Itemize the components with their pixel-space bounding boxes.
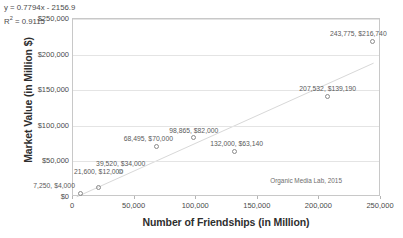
x-axis-tick-mark [195, 196, 196, 199]
data-point-marker[interactable] [232, 149, 237, 154]
data-point-label: 7,250, $4,000 [33, 182, 75, 189]
y-axis-tick-label: $150,000 [3, 85, 69, 94]
x-axis-tick-labels: 050,000100,000150,000200,000250,000 [72, 201, 380, 213]
data-point-marker[interactable] [154, 144, 159, 149]
x-axis-tick-mark [318, 196, 319, 199]
trendline-r-squared: R2 = 0.9115 [4, 13, 75, 27]
data-point-label: 132,000, $63,140 [210, 140, 263, 147]
x-axis-tick-label: 150,000 [243, 201, 270, 210]
data-point-label: 207,532, $139,190 [299, 85, 356, 92]
x-axis-tick-label: 200,000 [305, 201, 332, 210]
x-axis-title: Number of Friendships (in Million) [72, 216, 380, 228]
data-point-label: 39,520, $34,000 [96, 160, 145, 167]
r-squared-value: = 0.9115 [13, 17, 45, 26]
y-axis-tick-label: $100,000 [3, 120, 69, 129]
x-axis-tick-label: 50,000 [122, 201, 145, 210]
x-axis-tick-label: 100,000 [182, 201, 209, 210]
gridline [73, 126, 379, 127]
gridline [73, 19, 379, 20]
y-axis-tick-label: $0 [3, 192, 69, 201]
y-axis-tick-labels: $0$50,000$100,000$150,000$200,000$250,00… [0, 18, 69, 196]
data-point-label: 98,865, $82,000 [169, 127, 218, 134]
data-point-label: 68,495, $70,000 [124, 135, 173, 142]
trendline-equation-annotation: y = 0.7794x - 2156.9 R2 = 0.9115 [4, 2, 75, 27]
x-axis-tick-label: 0 [70, 201, 74, 210]
x-axis-tick-label: 250,000 [366, 201, 393, 210]
gridline [73, 55, 379, 56]
x-axis-tick-mark [380, 196, 381, 199]
y-axis-tick-label: $200,000 [3, 49, 69, 58]
watermark-annotation: Organic Media Lab, 2015 [270, 177, 342, 184]
x-axis-tick-mark [72, 196, 73, 199]
data-point-marker[interactable] [370, 39, 375, 44]
trendline-equation: y = 0.7794x - 2156.9 [4, 2, 75, 13]
x-axis-tick-mark [257, 196, 258, 199]
data-point-label: 21,600, $12,000 [74, 168, 123, 175]
scatter-chart: Market Value (in Million $) $0$50,000$10… [0, 0, 403, 238]
y-axis-tick-label: $50,000 [3, 156, 69, 165]
data-point-label: 243,775, $216,740 [330, 30, 387, 37]
x-axis-tick-mark [134, 196, 135, 199]
